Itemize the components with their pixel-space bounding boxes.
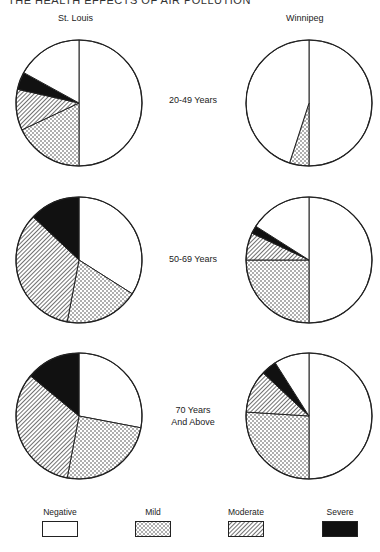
pie-winnipeg-5 (246, 353, 372, 479)
legend-swatch-mild (135, 521, 171, 537)
slice-negative (79, 40, 142, 166)
slice-mild (67, 416, 141, 479)
pie-winnipeg-3 (246, 197, 372, 323)
slice-negative (309, 40, 372, 166)
slice-mild (246, 260, 309, 323)
legend-moderate: Moderate (216, 507, 276, 537)
legend-swatch-negative (42, 521, 78, 537)
slice-negative (309, 197, 372, 323)
pie-st-louis-0 (16, 40, 142, 166)
pie-winnipeg-1 (246, 40, 372, 166)
legend-swatch-moderate (228, 521, 264, 537)
pie-charts (0, 0, 380, 552)
slice-negative (309, 353, 372, 479)
pie-st-louis-2 (16, 197, 142, 323)
legend-severe: Severe (310, 507, 370, 537)
legend-swatch-severe (322, 521, 358, 537)
slice-negative (79, 353, 142, 428)
legend-negative: Negative (30, 507, 90, 537)
pie-st-louis-4 (16, 353, 142, 479)
slice-mild (246, 412, 309, 479)
legend-mild: Mild (123, 507, 183, 537)
